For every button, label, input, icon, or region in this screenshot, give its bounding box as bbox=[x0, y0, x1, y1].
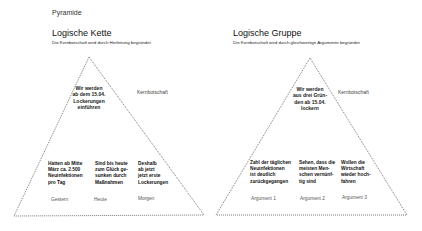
left-core-label: Kernbotschaft bbox=[137, 89, 168, 95]
core-line: einführen bbox=[64, 104, 114, 110]
right-column-3: Wollen die Wirtschaft wieder hoch- fahre… bbox=[341, 160, 371, 185]
column-line: sunken durch bbox=[95, 173, 128, 179]
column-line: pro Tag bbox=[48, 180, 83, 186]
right-section-subtitle: Die Kernbotschaft wird durch gleichwerti… bbox=[233, 40, 360, 45]
left-pyramid-triangle bbox=[14, 57, 204, 216]
column-line: Lockerungen bbox=[138, 180, 168, 186]
column-line: zurückgegangen bbox=[250, 179, 291, 185]
right-core-label: Kernbotschaft bbox=[338, 89, 369, 95]
left-column-1: Hatten ab Mitte März ca. 2.500 Neuinfekt… bbox=[48, 161, 83, 186]
left-core-message: Wir werden ab dem 15.04. Lockerungen ein… bbox=[64, 85, 114, 110]
column-line: wieder hoch- bbox=[341, 172, 371, 178]
right-core-message: Wir werden aus drei Grün- den ab 15.04. … bbox=[285, 86, 335, 111]
right-pyramid-triangle bbox=[216, 58, 407, 215]
right-footer-2: Argument 2 bbox=[300, 196, 325, 201]
column-line: schen vernünf- bbox=[299, 172, 335, 178]
page-title: Pyramide bbox=[52, 9, 82, 16]
core-line: lockern bbox=[285, 105, 335, 111]
right-footer-1: Argument 1 bbox=[251, 196, 276, 201]
left-footer-2: Heute bbox=[94, 197, 107, 202]
column-line: Neuinfektionen bbox=[48, 173, 83, 179]
column-line: fahren bbox=[341, 179, 371, 185]
right-footer-3: Argument 3 bbox=[342, 195, 367, 200]
left-footer-3: Morgen bbox=[138, 196, 154, 201]
left-column-3: Deshalb ab jetzt jetzt erste Lockerungen bbox=[138, 161, 168, 186]
left-column-2: Sind bis heute zum Glück ge- sunken durc… bbox=[95, 161, 128, 186]
column-line: Maßnahmen bbox=[95, 180, 128, 186]
right-section-title: Logische Gruppe bbox=[233, 28, 302, 38]
right-column-1: Zahl der täglichen Neuinfektionen ist de… bbox=[250, 160, 291, 185]
left-footer-1: Gestern bbox=[51, 197, 68, 202]
column-line: tig sind bbox=[299, 179, 335, 185]
left-section-title: Logische Kette bbox=[52, 28, 112, 38]
right-column-2: Sehen, dass die meisten Men- schen vernü… bbox=[299, 160, 335, 185]
left-section-subtitle: Die Kernbotschaft wird durch Herleitung … bbox=[52, 40, 151, 45]
